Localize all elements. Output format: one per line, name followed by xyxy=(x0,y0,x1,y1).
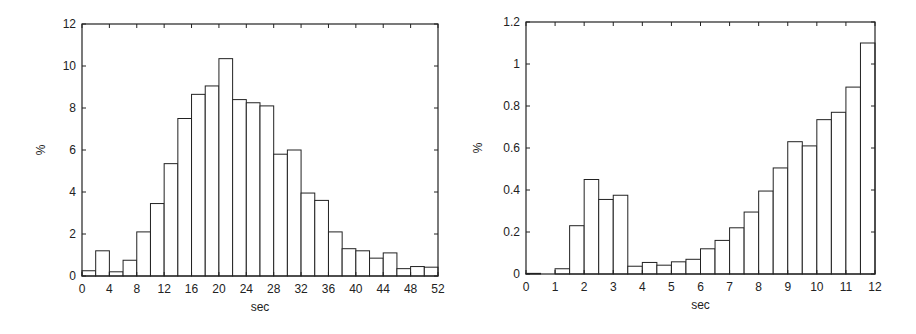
histogram-bar xyxy=(219,59,233,276)
histogram-bar xyxy=(164,164,178,276)
histogram-bar xyxy=(584,180,599,275)
x-tick-label: 6 xyxy=(697,280,704,294)
histogram-bar xyxy=(788,142,803,274)
x-tick-label: 32 xyxy=(294,282,308,296)
histogram-bar xyxy=(370,258,384,276)
x-axis-label: sec xyxy=(691,298,710,312)
x-tick-label: 16 xyxy=(185,282,199,296)
histogram-bar xyxy=(759,191,774,274)
histogram-bar xyxy=(715,240,730,274)
x-tick-label: 4 xyxy=(639,280,646,294)
x-tick-label: 8 xyxy=(755,280,762,294)
x-tick-label: 2 xyxy=(581,280,588,294)
histogram-bar xyxy=(773,168,788,274)
y-tick-label: 0.6 xyxy=(503,141,520,155)
histogram-bar xyxy=(570,226,585,274)
histogram-bar xyxy=(744,212,759,274)
histogram-bar xyxy=(178,119,192,277)
histogram-bar xyxy=(328,232,342,276)
y-tick-label: 6 xyxy=(69,143,76,157)
histogram-bar xyxy=(233,100,247,276)
y-tick-label: 0.2 xyxy=(503,225,520,239)
histogram-bar xyxy=(701,249,716,274)
y-tick-label: 1.2 xyxy=(503,15,520,29)
histogram-bar xyxy=(315,200,329,276)
histogram-bar xyxy=(657,265,672,274)
histogram-bar xyxy=(123,260,137,276)
histogram-bar xyxy=(555,269,570,274)
y-tick-label: 0 xyxy=(69,269,76,283)
x-tick-label: 5 xyxy=(668,280,675,294)
histogram-bar xyxy=(671,262,686,274)
histogram-bar xyxy=(411,267,425,276)
histogram-bar xyxy=(342,249,356,276)
histogram-bar xyxy=(82,271,96,276)
x-tick-label: 44 xyxy=(377,282,391,296)
histogram-bar xyxy=(686,259,701,274)
histogram-chart-1: 0481216202428323640444852024681012sec% xyxy=(34,17,445,314)
histogram-bar xyxy=(383,253,397,276)
histogram-bar xyxy=(109,272,123,276)
y-tick-label: 10 xyxy=(63,59,77,73)
y-tick-label: 4 xyxy=(69,185,76,199)
y-tick-label: 1 xyxy=(513,57,520,71)
histogram-bar xyxy=(860,43,875,274)
y-tick-label: 0.4 xyxy=(503,183,520,197)
y-tick-label: 0 xyxy=(513,267,520,281)
x-tick-label: 52 xyxy=(431,282,445,296)
histogram-bar xyxy=(287,150,301,276)
histogram-bar xyxy=(846,87,861,274)
histogram-bar xyxy=(246,103,260,276)
y-tick-label: 12 xyxy=(63,17,77,31)
histogram-bar xyxy=(150,204,164,276)
x-tick-label: 1 xyxy=(552,280,559,294)
histogram-bar xyxy=(628,266,643,274)
x-tick-label: 0 xyxy=(523,280,530,294)
x-tick-label: 12 xyxy=(157,282,171,296)
figure: 0481216202428323640444852024681012sec%01… xyxy=(0,0,916,334)
bars xyxy=(82,59,438,276)
x-tick-label: 11 xyxy=(840,280,853,294)
histogram-bar xyxy=(730,228,745,274)
histogram-bar xyxy=(274,154,288,276)
histogram-bar xyxy=(301,193,315,276)
y-tick-label: 8 xyxy=(69,101,76,115)
x-tick-label: 28 xyxy=(267,282,281,296)
x-tick-label: 24 xyxy=(240,282,254,296)
histogram-bar xyxy=(424,267,438,276)
x-tick-label: 9 xyxy=(784,280,791,294)
x-tick-label: 40 xyxy=(349,282,363,296)
histogram-bar xyxy=(260,106,274,276)
histogram-bar xyxy=(205,86,219,276)
histogram-bar xyxy=(599,199,614,274)
x-tick-label: 0 xyxy=(79,282,86,296)
histogram-bar xyxy=(137,232,151,276)
x-tick-label: 8 xyxy=(133,282,140,296)
histogram-chart-2: 012345678910111200.20.40.60.811.2sec% xyxy=(471,15,882,312)
histogram-bar xyxy=(802,146,817,274)
y-axis-label: % xyxy=(34,144,48,155)
histogram-bar xyxy=(356,251,370,276)
x-tick-label: 10 xyxy=(810,280,824,294)
histogram-bar xyxy=(192,94,206,276)
histogram-bar xyxy=(397,269,411,276)
histogram-bar xyxy=(96,251,110,276)
x-tick-label: 7 xyxy=(726,280,733,294)
y-tick-label: 0.8 xyxy=(503,99,520,113)
x-tick-label: 48 xyxy=(404,282,418,296)
histogram-bar xyxy=(613,195,628,274)
x-tick-label: 12 xyxy=(868,280,882,294)
x-tick-label: 3 xyxy=(610,280,617,294)
x-tick-label: 4 xyxy=(106,282,113,296)
x-tick-label: 36 xyxy=(322,282,336,296)
histogram-bar xyxy=(817,120,832,274)
histogram-bar xyxy=(831,112,846,274)
x-tick-label: 20 xyxy=(212,282,226,296)
histogram-bar xyxy=(642,262,657,274)
x-axis-label: sec xyxy=(251,300,270,314)
y-axis-label: % xyxy=(471,142,485,153)
bars xyxy=(526,43,875,274)
y-tick-label: 2 xyxy=(69,227,76,241)
